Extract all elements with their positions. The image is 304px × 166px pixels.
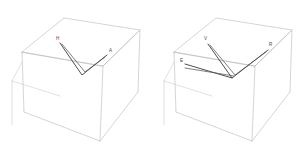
atom-label-e: E — [180, 58, 183, 63]
atom-label-a: A — [109, 48, 113, 53]
left-scene-svg: H A — [0, 0, 152, 166]
cube-back-edges — [12, 62, 60, 125]
atom-label-v: V — [204, 36, 208, 41]
right-scene-svg: V R E — [152, 0, 304, 166]
cube-wireframe — [174, 18, 292, 141]
figure-canvas: H A — [0, 0, 304, 166]
right-structure-panel: V R E — [152, 0, 304, 166]
atom-label-r: R — [269, 42, 273, 47]
molecule-bonds — [60, 43, 107, 75]
atom-label-h: H — [56, 36, 59, 41]
cube-wireframe — [22, 18, 140, 141]
left-structure-panel: H A — [0, 0, 152, 166]
